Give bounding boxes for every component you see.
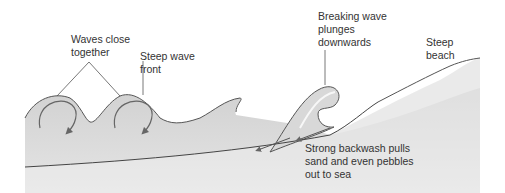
leader-waves-close (57, 62, 120, 96)
label-waves-close: Waves close together (71, 33, 130, 59)
label-steep-front: Steep wave front (140, 50, 195, 76)
wave-diagram (0, 0, 505, 193)
label-breaking-wave: Breaking wave plunges downwards (318, 10, 387, 49)
label-backwash: Strong backwash pulls sand and even pebb… (305, 142, 414, 181)
label-steep-beach: Steep beach (426, 36, 455, 62)
